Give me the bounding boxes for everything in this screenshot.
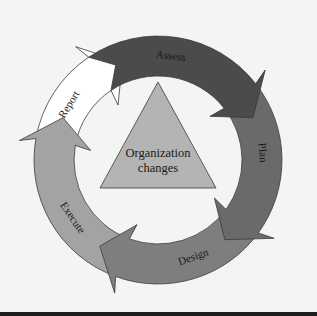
center-label-line1: Organization: [125, 146, 191, 160]
center-label-line2: changes: [138, 161, 178, 175]
segment-label-plan: Plan: [256, 142, 269, 163]
cycle-diagram: Organization changes ReportExecuteDesign…: [0, 0, 317, 316]
bottom-rule: [0, 312, 317, 316]
segment-assess-arrow: [89, 36, 266, 118]
